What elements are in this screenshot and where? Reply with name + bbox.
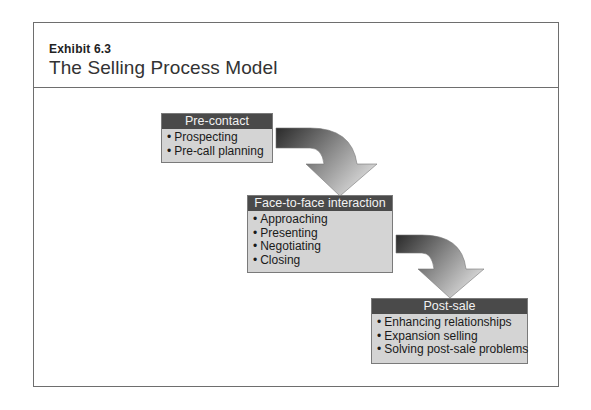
list-item: Negotiating <box>253 240 392 254</box>
diagram-title: The Selling Process Model <box>49 57 278 79</box>
list-item: Pre-call planning <box>167 145 272 159</box>
stage-pre-contact: Pre-contact Prospecting Pre-call plannin… <box>161 113 273 163</box>
list-item: Closing <box>253 254 392 268</box>
stage-items: Approaching Presenting Negotiating Closi… <box>248 211 392 267</box>
stage-items: Enhancing relationships Expansion sellin… <box>372 314 527 357</box>
list-item: Presenting <box>253 227 392 241</box>
list-item: Enhancing relationships <box>377 316 527 330</box>
curved-arrow-down-icon <box>272 124 382 198</box>
stage-items: Prospecting Pre-call planning <box>162 129 272 158</box>
list-item: Expansion selling <box>377 330 527 344</box>
list-item: Prospecting <box>167 131 272 145</box>
list-item: Solving post-sale problems <box>377 343 527 357</box>
exhibit-label: Exhibit 6.3 <box>49 42 111 56</box>
header-divider <box>33 87 559 88</box>
stage-post-sale: Post-sale Enhancing relationships Expans… <box>371 298 528 364</box>
stage-face-to-face-interaction: Face-to-face interaction Approaching Pre… <box>247 195 393 273</box>
stage-title: Post-sale <box>372 299 527 314</box>
curved-arrow-down-icon <box>392 231 492 301</box>
stage-title: Face-to-face interaction <box>248 196 392 211</box>
list-item: Approaching <box>253 213 392 227</box>
stage-title: Pre-contact <box>162 114 272 129</box>
